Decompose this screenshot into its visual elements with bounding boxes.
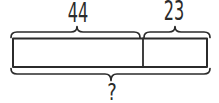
bar-rectangle bbox=[13, 39, 207, 68]
left-part-label: 44 bbox=[68, 0, 89, 28]
brace-left-part bbox=[11, 27, 140, 38]
total-label: ? bbox=[107, 79, 117, 103]
braces-group bbox=[11, 27, 210, 81]
tape-diagram-canvas: 44 23 ? bbox=[0, 0, 219, 103]
labels-group: 44 23 ? bbox=[68, 0, 185, 103]
tape-diagram: 44 23 ? bbox=[0, 0, 219, 103]
brace-right-part bbox=[144, 27, 210, 38]
right-part-label: 23 bbox=[164, 0, 185, 26]
bar-group bbox=[13, 39, 207, 68]
